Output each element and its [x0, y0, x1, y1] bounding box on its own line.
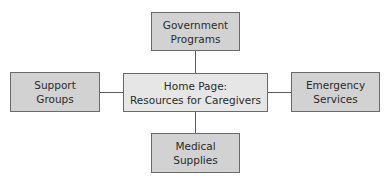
node-label-line: Resources for Caregivers — [130, 93, 261, 107]
node-emergency-services: Emergency Services — [291, 72, 380, 112]
node-label-line: Programs — [171, 32, 221, 46]
connector-bottom — [195, 111, 196, 133]
node-medical-supplies: Medical Supplies — [151, 133, 240, 173]
node-label-line: Services — [313, 92, 357, 106]
node-label-line: Government — [163, 18, 228, 32]
connector-left — [99, 92, 123, 93]
node-label-line: Support — [34, 78, 76, 92]
node-government-programs: Government Programs — [151, 12, 240, 51]
node-home-page: Home Page: Resources for Caregivers — [123, 73, 268, 112]
node-label-line: Supplies — [173, 153, 217, 167]
node-label-line: Medical — [175, 139, 215, 153]
connector-right — [267, 92, 291, 93]
node-support-groups: Support Groups — [10, 72, 100, 112]
connector-top — [195, 50, 196, 73]
node-label-line: Groups — [36, 92, 73, 106]
node-label-line: Emergency — [306, 78, 365, 92]
site-map-diagram: Government Programs Support Groups Home … — [0, 0, 390, 182]
node-label-line: Home Page: — [164, 79, 227, 93]
